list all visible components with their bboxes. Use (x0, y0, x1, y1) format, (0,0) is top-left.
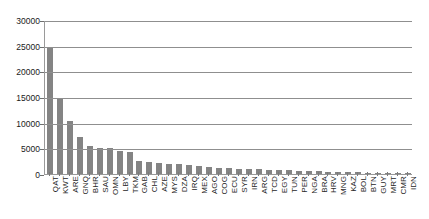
x-axis-tick-label: ARE (72, 176, 80, 193)
x-axis-tick-label: GUY (380, 176, 388, 194)
bar (117, 151, 123, 174)
y-axis-tick-mark (40, 72, 44, 73)
y-axis-tick-label: 30000 (0, 17, 40, 26)
gridline (45, 21, 412, 22)
x-axis-tick-mark (129, 172, 130, 176)
x-axis-tick-mark (59, 172, 60, 176)
x-axis-tick-label: KWT (62, 176, 70, 194)
x-axis-tick-mark (268, 172, 269, 176)
x-axis-tick-label: MNG (340, 176, 348, 195)
x-axis-tick-label: TCD (271, 176, 279, 193)
x-axis-tick-mark (308, 172, 309, 176)
bar (77, 137, 83, 174)
gridline (45, 98, 412, 99)
plot-area (44, 21, 412, 175)
x-axis-tick-mark (168, 172, 169, 176)
x-axis-tick-mark (218, 172, 219, 176)
x-axis-tick-mark (238, 172, 239, 176)
x-axis-tick-mark (228, 172, 229, 176)
x-axis-tick-mark (278, 172, 279, 176)
gridline (45, 149, 412, 150)
y-axis-tick-mark (40, 175, 44, 176)
x-axis-tick-mark (357, 172, 358, 176)
x-axis-tick-label: HRV (330, 176, 338, 193)
y-axis-tick-label: 5000 (0, 145, 40, 154)
x-axis-tick-mark (119, 172, 120, 176)
y-axis-tick-mark (40, 98, 44, 99)
x-axis-tick-mark (397, 172, 398, 176)
x-axis-tick-label: SAU (102, 176, 110, 193)
x-axis-tick-mark (327, 172, 328, 176)
y-axis-tick-label: 20000 (0, 68, 40, 77)
x-axis-tick-label: SYR (241, 176, 249, 193)
x-axis-tick-label: EGY (281, 176, 289, 193)
x-axis-tick-mark (148, 172, 149, 176)
x-axis-tick-mark (288, 172, 289, 176)
x-axis-tick-label: NGA (311, 176, 319, 194)
x-axis-tick-label: KAZ (350, 176, 358, 192)
bar (97, 148, 103, 174)
bar (127, 152, 133, 174)
x-axis-tick-mark (138, 172, 139, 176)
x-axis-tick-mark (198, 172, 199, 176)
x-axis-tick-label: PER (301, 176, 309, 193)
gridline (45, 72, 412, 73)
x-axis-tick-mark (318, 172, 319, 176)
bar (405, 173, 411, 174)
x-axis-tick-label: QAT (52, 176, 60, 192)
x-axis-tick-mark (69, 172, 70, 176)
x-axis-tick-label: TUN (291, 176, 299, 193)
x-axis-tick-label: CHL (151, 176, 159, 192)
x-axis-tick-mark (347, 172, 348, 176)
bar (57, 98, 63, 174)
x-axis-tick-mark (248, 172, 249, 176)
x-axis-tick-label: ECU (231, 176, 239, 193)
bar (226, 168, 232, 174)
x-axis-tick-mark (298, 172, 299, 176)
x-axis-tick-label: IDN (410, 176, 418, 190)
bar (107, 148, 113, 174)
x-axis-tick-label: CMR (400, 176, 408, 195)
x-axis-tick-mark (109, 172, 110, 176)
x-axis-tick-mark (99, 172, 100, 176)
x-axis-tick-label: TKM (132, 176, 140, 193)
x-axis-tick-mark (79, 172, 80, 176)
x-axis-tick-label: ARG (261, 176, 269, 194)
y-axis-tick-mark (40, 149, 44, 150)
x-axis-tick-label: MEX (201, 176, 209, 194)
y-axis-tick-label: 15000 (0, 94, 40, 103)
gridline (45, 124, 412, 125)
x-axis-tick-label: DZA (181, 176, 189, 192)
y-axis-tick-label: 0 (0, 171, 40, 180)
bar (395, 173, 401, 174)
x-axis-tick-mark (377, 172, 378, 176)
x-axis-tick-mark (208, 172, 209, 176)
x-axis-tick-label: OMN (112, 176, 120, 195)
x-axis-tick-mark (367, 172, 368, 176)
x-axis-tick-mark (49, 172, 50, 176)
x-axis-tick-mark (178, 172, 179, 176)
gridline (45, 47, 412, 48)
y-axis-tick-label: 25000 (0, 43, 40, 52)
x-axis-tick-label: GNQ (82, 176, 90, 195)
x-axis-tick-label: MRT (390, 176, 398, 193)
y-axis-tick-mark (40, 21, 44, 22)
bar (47, 48, 53, 174)
x-axis-tick-label: IRQ (191, 176, 199, 191)
x-axis-tick-label: LBY (122, 176, 130, 191)
bar-chart: QATKWTAREGNQBHRSAUOMNLBYTKMGABCHLAZEMYSD… (0, 0, 429, 219)
bar (67, 121, 73, 174)
bar (206, 167, 212, 174)
x-axis-tick-label: AZE (161, 176, 169, 192)
x-axis-tick-label: BTN (370, 176, 378, 192)
x-axis-tick-label: COG (221, 176, 229, 195)
x-axis-tick-mark (188, 172, 189, 176)
x-axis-tick-mark (89, 172, 90, 176)
bar (87, 146, 93, 174)
x-axis-tick-mark (337, 172, 338, 176)
x-axis-tick-mark (407, 172, 408, 176)
x-axis-labels: QATKWTAREGNQBHRSAUOMNLBYTKMGABCHLAZEMYSD… (44, 176, 412, 219)
y-axis-tick-mark (40, 47, 44, 48)
x-axis-tick-mark (258, 172, 259, 176)
x-axis-tick-label: MYS (171, 176, 179, 194)
